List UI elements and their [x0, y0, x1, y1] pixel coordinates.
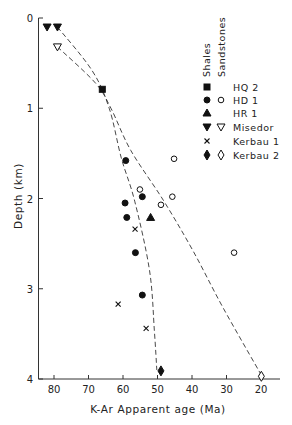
data-point [147, 213, 155, 220]
data-point [123, 158, 129, 164]
legend-sandstone-marker [218, 97, 224, 103]
data-point [139, 194, 145, 200]
x-tick-label: 30 [220, 384, 233, 395]
data-point [231, 250, 237, 256]
legend-entry: HQ 2 [204, 82, 259, 93]
legend-entry: Misedor [203, 122, 274, 133]
y-axis-title: Depth (km) [12, 163, 24, 229]
y-tick-label: 0 [27, 13, 33, 24]
data-point [170, 194, 176, 200]
legend-shale-marker [204, 150, 210, 160]
x-tick-label: 80 [48, 384, 61, 395]
data-point [144, 326, 149, 331]
x-tick-label: 50 [151, 384, 164, 395]
legend-entry: HD 1 [204, 95, 259, 106]
data-point [122, 200, 128, 206]
legend-entry: Kerbau 1 [205, 136, 280, 147]
y-ticks: 01234 [27, 13, 43, 385]
y-tick-label: 3 [27, 284, 33, 295]
legend-shale-marker [204, 97, 210, 103]
legend-shale-marker [204, 84, 210, 90]
legend-label: HR 1 [233, 108, 258, 119]
legend-entry: Kerbau 2 [204, 150, 279, 161]
trend-lines [57, 27, 262, 376]
legend: Shales Sandstones HQ 2HD 1HR 1MisedorKer… [201, 17, 279, 161]
x-tick-label: 20 [255, 384, 268, 395]
y-tick-label: 1 [27, 103, 33, 114]
data-point [116, 302, 121, 307]
y-tick-label: 4 [27, 374, 33, 385]
y-tick-label: 2 [27, 194, 33, 205]
x-tick-label: 60 [117, 384, 130, 395]
data-point [43, 24, 51, 31]
x-tick-label: 40 [186, 384, 199, 395]
depth-vs-age-chart: 80706050403020 01234 K-Ar Apparent age (… [0, 0, 292, 425]
data-point [258, 371, 264, 381]
data-point [158, 366, 164, 376]
x-axis-title: K-Ar Apparent age (Ma) [90, 403, 226, 415]
data-point [139, 292, 145, 298]
legend-sandstone-marker [218, 150, 224, 160]
legend-shale-marker [203, 109, 211, 116]
legend-label: Kerbau 2 [233, 150, 279, 161]
sandstone-trend-line [57, 47, 262, 376]
data-point [133, 227, 138, 232]
x-ticks: 80706050403020 [48, 375, 268, 395]
legend-entry: HR 1 [203, 108, 258, 119]
data-point [132, 250, 138, 256]
legend-label: Misedor [233, 122, 274, 133]
x-tick-label: 70 [82, 384, 95, 395]
data-point [158, 202, 164, 208]
legend-sandstone-marker [217, 124, 225, 131]
legend-header-sandstones: Sandstones [216, 17, 227, 77]
data-point [171, 156, 177, 162]
data-point [99, 86, 105, 92]
legend-label: Kerbau 1 [233, 136, 279, 147]
legend-label: HD 1 [233, 95, 259, 106]
legend-header-shales: Shales [201, 43, 212, 77]
legend-label: HQ 2 [233, 82, 259, 93]
axes [39, 18, 281, 379]
legend-shale-marker [205, 139, 210, 144]
legend-shale-marker [203, 124, 211, 131]
data-point [124, 214, 130, 220]
data-point [137, 187, 143, 193]
